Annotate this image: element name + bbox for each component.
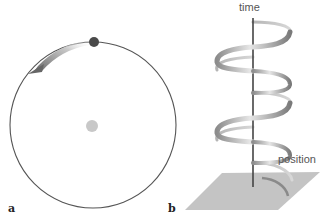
panel-a-label: a — [8, 202, 15, 215]
panel-a — [10, 37, 176, 208]
diagram-canvas — [0, 0, 328, 221]
panel-b-label: b — [168, 202, 176, 215]
time-axis-label: time — [239, 1, 260, 13]
moving-dot — [89, 37, 99, 47]
position-axis-label: position — [278, 153, 316, 165]
center-dot — [86, 120, 98, 132]
panel-b — [185, 18, 320, 210]
